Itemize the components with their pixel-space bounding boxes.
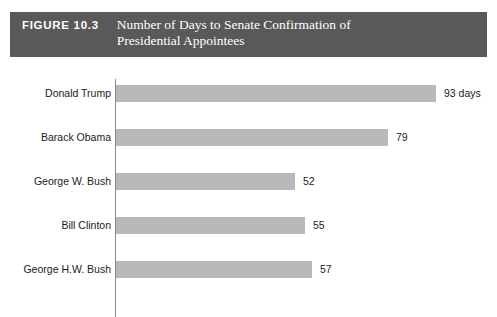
bar-value-label: 79 [396, 129, 408, 146]
bar-row: Barack Obama79 [0, 129, 497, 146]
bar-chart-plot-area: Donald Trump93 daysBarack Obama79George … [0, 57, 497, 310]
figure-title-line-1: Number of Days to Senate Confirmation of [117, 17, 351, 33]
bar-row: Donald Trump93 days [0, 85, 497, 102]
figure-title-line-2: Presidential Appointees [117, 33, 351, 49]
bar-rect [116, 261, 312, 278]
bar-category-label: George H.W. Bush [23, 261, 111, 278]
bar-value-label: 52 [303, 173, 315, 190]
bar-value-label: 93 days [444, 85, 481, 102]
bar-value-label: 57 [320, 261, 332, 278]
figure-number-label: FIGURE 10.3 [22, 17, 99, 31]
bar-category-label: Donald Trump [45, 85, 111, 102]
bar-value-label: 55 [313, 217, 325, 234]
figure-title: Number of Days to Senate Confirmation of… [117, 17, 351, 49]
bar-category-label: Bill Clinton [61, 217, 111, 234]
bar-row: Bill Clinton55 [0, 217, 497, 234]
bar-row: George H.W. Bush57 [0, 261, 497, 278]
bar-rect [116, 129, 388, 146]
bar-row: George W. Bush52 [0, 173, 497, 190]
bar-category-label: George W. Bush [34, 173, 111, 190]
bar-rect [116, 173, 295, 190]
bar-rect [116, 85, 436, 102]
y-axis-line [115, 79, 116, 317]
bar-category-label: Barack Obama [41, 129, 111, 146]
figure-header-banner: FIGURE 10.3 Number of Days to Senate Con… [10, 12, 487, 57]
bar-rect [116, 217, 305, 234]
